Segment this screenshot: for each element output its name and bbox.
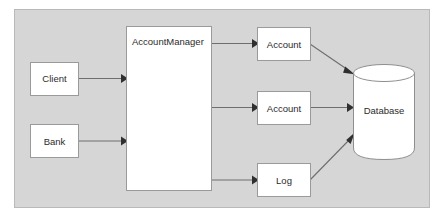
node-log-label: Log [276, 175, 292, 186]
node-account-manager[interactable]: AccountManager [127, 27, 212, 191]
node-account-manager-label: AccountManager [132, 36, 204, 47]
architecture-diagram: Client Bank AccountManager Account Accou… [0, 0, 446, 222]
node-bank[interactable]: Bank [31, 125, 79, 158]
node-log[interactable]: Log [258, 164, 311, 197]
diagram-canvas: Client Bank AccountManager Account Accou… [0, 0, 446, 222]
node-account-top-label: Account [267, 39, 302, 50]
node-client-label: Client [42, 73, 67, 84]
node-account-top[interactable]: Account [258, 28, 311, 61]
node-client[interactable]: Client [31, 63, 79, 96]
node-bank-label: Bank [44, 136, 66, 147]
node-account-middle[interactable]: Account [258, 92, 311, 125]
node-database[interactable]: Database [354, 65, 415, 160]
node-account-middle-label: Account [267, 103, 302, 114]
node-database-label: Database [364, 105, 405, 116]
